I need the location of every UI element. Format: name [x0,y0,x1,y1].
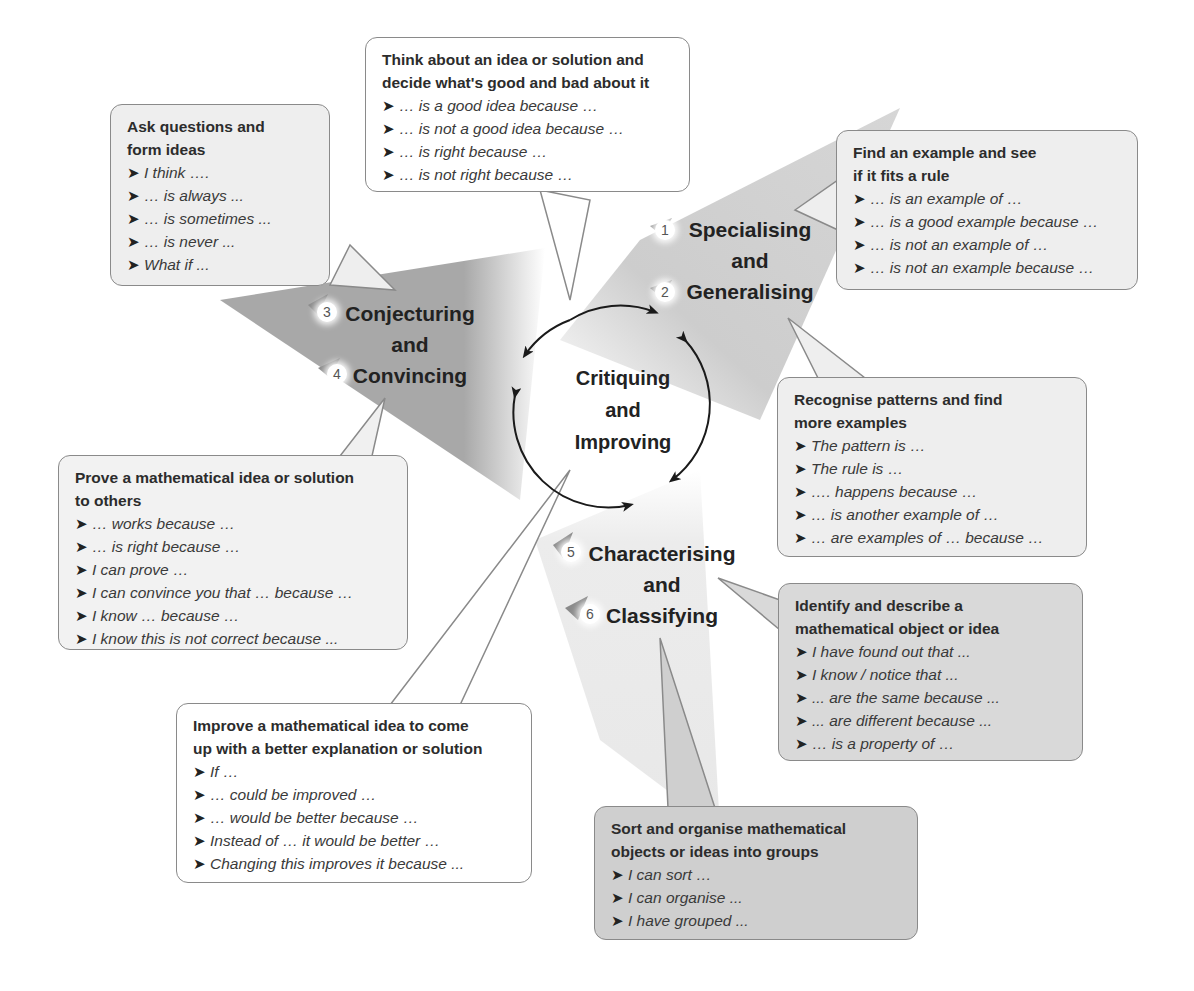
arrowhead-icon: ➤ [382,97,395,114]
callout-title: Recognise patterns and find [794,388,1074,411]
tail-prove [340,398,385,456]
callout-title: Improve a mathematical idea to come [193,714,519,737]
prompt-item: ➤… is never ... [127,230,317,253]
arrowhead-icon: ➤ [853,213,866,230]
prompt-item: ➤Changing this improves it because ... [193,852,519,875]
callout-identify: Identify and describe a mathematical obj… [778,583,1083,761]
arrowhead-icon: ➤ [75,538,88,555]
arrowhead-icon: ➤ [795,689,808,706]
arrowhead-icon: ➤ [853,236,866,253]
prompt-item: ➤… is not a good idea because … [382,117,677,140]
arrowhead-icon: ➤ [193,763,206,780]
prompt-item: ➤If … [193,760,519,783]
callout-title: form ideas [127,138,317,161]
arrowhead-icon: ➤ [127,187,140,204]
prompt-item: ➤I know / notice that ... [795,663,1070,686]
skill-label-conjecturing: Conjecturing and Convincing [340,298,480,391]
prompt-item: ➤… is not right because … [382,163,677,186]
skill-line: and [582,569,742,600]
callout-title: Ask questions and [127,115,317,138]
prompt-item: ➤Instead of … it would be better … [193,829,519,852]
skill-label-characterising: Characterising and Classifying [582,538,742,631]
callout-title: Find an example and see [853,141,1125,164]
arrowhead-icon: ➤ [795,735,808,752]
number-badge-2: 2 [655,282,675,302]
callout-title: mathematical object or idea [795,617,1070,640]
prompt-item: ➤I can sort … [611,863,905,886]
prompt-item: ➤… is right because … [75,535,395,558]
arrowhead-icon: ➤ [127,233,140,250]
arrowhead-icon: ➤ [75,561,88,578]
callout-find-example: Find an example and see if it fits a rul… [836,130,1138,290]
arrowhead-icon: ➤ [75,584,88,601]
arrowhead-icon: ➤ [75,515,88,532]
prompt-item: ➤I can convince you that … because … [75,581,395,604]
callout-improve: Improve a mathematical idea to come up w… [176,703,532,883]
skill-line: and [340,329,480,360]
callout-title: decide what's good and bad about it [382,71,677,94]
prompt-item: ➤… works because … [75,512,395,535]
skill-line: and [680,245,820,276]
prompt-item: ➤… is an example of … [853,187,1125,210]
prompt-item: ➤…. happens because … [794,480,1074,503]
arrowhead-icon: ➤ [853,190,866,207]
prompt-item: ➤... are different because ... [795,709,1070,732]
arrowhead-icon: ➤ [611,889,624,906]
callout-title: Prove a mathematical idea or solution [75,466,395,489]
callout-title: Sort and organise mathematical [611,817,905,840]
arrowhead-icon: ➤ [75,607,88,624]
arrowhead-icon: ➤ [382,120,395,137]
arrowhead-icon: ➤ [611,866,624,883]
tail-ask [330,245,395,290]
arrowhead-icon: ➤ [193,786,206,803]
arrowhead-icon: ➤ [382,143,395,160]
number-badge-5: 5 [561,542,581,562]
prompt-item: ➤I can prove … [75,558,395,581]
prompt-item: ➤… is sometimes ... [127,207,317,230]
arrowhead-icon: ➤ [795,643,808,660]
callout-ask: Ask questions and form ideas ➤I think ….… [110,104,330,286]
prompt-item: ➤I think …. [127,161,317,184]
tail-improve [390,470,570,705]
prompt-item: ➤… is a good example because … [853,210,1125,233]
callout-title: Identify and describe a [795,594,1070,617]
center-line: Critiquing [548,362,698,394]
arrowhead-icon: ➤ [794,437,807,454]
prompt-item: ➤What if ... [127,253,317,276]
callout-critique: Think about an idea or solution and deci… [365,37,690,192]
callout-title: objects or ideas into groups [611,840,905,863]
prompt-item: ➤… would be better because … [193,806,519,829]
callout-title: more examples [794,411,1074,434]
arrowhead-icon: ➤ [794,506,807,523]
callout-title: if it fits a rule [853,164,1125,187]
arrowhead-icon: ➤ [382,166,395,183]
number-badge-1: 1 [655,220,675,240]
arrowhead-icon: ➤ [794,529,807,546]
arrowhead-icon: ➤ [193,809,206,826]
prompt-item: ➤… could be improved … [193,783,519,806]
arrowhead-icon: ➤ [853,259,866,276]
prompt-item: ➤I have found out that ... [795,640,1070,663]
prompt-item: ➤… is a good idea because … [382,94,677,117]
center-line: Improving [548,426,698,458]
center-line: and [548,394,698,426]
skill-line: Generalising [680,276,820,307]
prompt-item: ➤… is right because … [382,140,677,163]
prompt-item: ➤… is a property of … [795,732,1070,755]
skill-label-specialising: Specialising and Generalising [680,214,820,307]
number-badge-3: 3 [317,302,337,322]
arrowhead-icon: ➤ [193,832,206,849]
skill-line: Classifying [582,600,742,631]
skill-line: Characterising [582,538,742,569]
skill-line: Conjecturing [340,298,480,329]
prompt-item: ➤… is always ... [127,184,317,207]
prompt-item: ➤The pattern is … [794,434,1074,457]
callout-title: Think about an idea or solution and [382,48,677,71]
prompt-item: ➤… is not an example because … [853,256,1125,279]
prompt-item: ➤… is not an example of … [853,233,1125,256]
tail-recognise [788,318,865,378]
arrowhead-icon: ➤ [127,210,140,227]
skill-line: Convincing [340,360,480,391]
prompt-item: ➤I know … because … [75,604,395,627]
prompt-item: ➤… is another example of … [794,503,1074,526]
